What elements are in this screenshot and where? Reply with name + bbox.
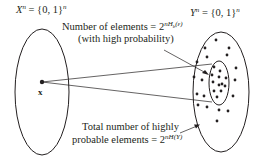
ray-bottom: [42, 82, 212, 102]
arrowhead-top-icon: [202, 70, 209, 75]
left-set-label: Xn = {0, 1}n: [16, 4, 66, 16]
pointer-bottom: [180, 126, 197, 133]
inner-dots: [211, 66, 228, 99]
point-x-label: x: [38, 86, 43, 98]
annotation-top-line1: Number of elements = 2nHb(ε): [62, 21, 183, 33]
image-subset-ellipse: [209, 61, 229, 105]
right-set-label: Yn = {0, 1}n: [190, 7, 240, 19]
outer-dots: [193, 39, 238, 123]
annotation-bottom-line2: probable elements = 2nH(Y): [72, 134, 182, 146]
annotation-bottom-line1: Total number of highly: [82, 121, 179, 133]
annotation-top-line2: (with high probability): [78, 33, 174, 45]
